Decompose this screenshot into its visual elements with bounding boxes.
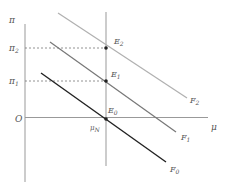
e1-label: E1 <box>110 70 121 80</box>
phillips-curve-diagram: π μ O μN π2 π1 E2 E1 E0 F2 F1 F0 <box>0 0 226 190</box>
curve-f2 <box>58 13 187 98</box>
origin-label: O <box>15 114 23 124</box>
y-axis-label: π <box>8 15 16 25</box>
point-e1 <box>104 79 108 83</box>
mu-n-label: μN <box>90 124 101 133</box>
pi1-label: π1 <box>8 76 19 87</box>
f0-label: F0 <box>169 165 180 175</box>
x-axis-label: μ <box>211 122 217 132</box>
f2-label: F2 <box>189 96 200 106</box>
point-e2 <box>104 46 108 50</box>
pi2-label: π2 <box>8 43 19 54</box>
point-e0 <box>104 117 108 121</box>
e0-label: E0 <box>107 106 118 116</box>
curve-f1 <box>50 42 176 132</box>
e2-label: E2 <box>113 37 124 47</box>
f1-label: F1 <box>180 133 190 143</box>
